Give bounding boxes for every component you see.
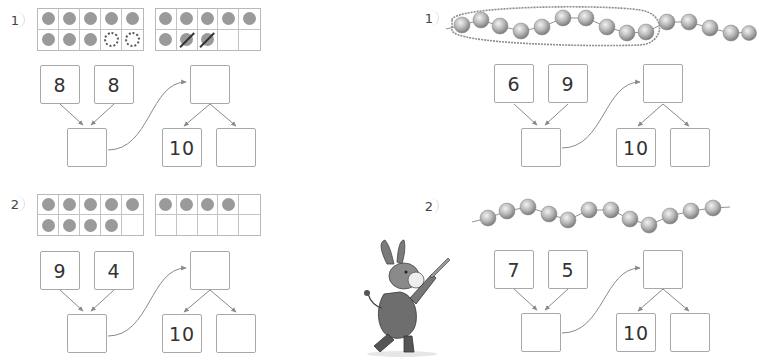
sum-answer-box[interactable] — [521, 128, 561, 167]
decomp-rest-answer-box[interactable] — [216, 314, 256, 353]
bead-string-2 — [472, 199, 730, 233]
bead-string-1 — [446, 7, 757, 46]
addend1-box: 7 — [494, 250, 534, 289]
decomp-ten-box: 10 — [162, 314, 202, 353]
decomp-rest-answer-box[interactable] — [670, 128, 710, 167]
sum-answer-box[interactable] — [521, 313, 561, 352]
decomp-top-answer-box[interactable] — [190, 251, 230, 290]
decomp-ten-box: 10 — [162, 128, 202, 167]
sum-answer-box[interactable] — [67, 128, 107, 167]
sum-answer-box[interactable] — [67, 314, 107, 353]
addend1-box: 6 — [494, 64, 534, 103]
decomp-rest-answer-box[interactable] — [216, 128, 256, 167]
decomp-top-answer-box[interactable] — [643, 250, 683, 289]
addend2-box: 9 — [548, 64, 588, 103]
addend2-box: 8 — [94, 65, 134, 104]
addend2-box: 5 — [548, 250, 588, 289]
decomp-top-answer-box[interactable] — [190, 65, 230, 104]
decomp-ten-box: 10 — [616, 313, 656, 352]
addend1-box: 9 — [40, 251, 80, 290]
decomp-top-answer-box[interactable] — [643, 64, 683, 103]
addend2-box: 4 — [94, 251, 134, 290]
decomp-ten-box: 10 — [616, 128, 656, 167]
addend1-box: 8 — [40, 65, 80, 104]
donkey-illustration-icon — [352, 236, 452, 361]
decomp-rest-answer-box[interactable] — [670, 313, 710, 352]
